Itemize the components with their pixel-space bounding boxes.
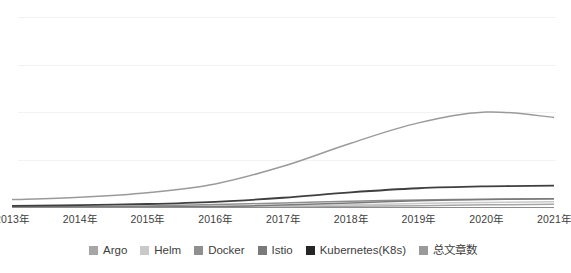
legend-item-kubernetes-k8s[interactable]: Kubernetes(K8s) [306, 243, 406, 257]
legend-item-helm[interactable]: Helm [140, 243, 181, 257]
gridlines [18, 18, 556, 161]
x-tick-label-2017: 2017年 [266, 212, 300, 226]
x-axis-tick-labels: 2013年2014年2015年2016年2017年2018年2019年2020年… [0, 212, 566, 232]
legend-swatch-icon [140, 246, 149, 255]
x-tick-label-2013: 2013年 [0, 212, 29, 226]
legend-label: Istio [272, 243, 293, 257]
legend-item-istio[interactable]: Istio [258, 243, 293, 257]
legend-label: Kubernetes(K8s) [320, 243, 406, 257]
x-tick-label-2020: 2020年 [469, 212, 503, 226]
x-tick-label-2019: 2019年 [402, 212, 436, 226]
legend-swatch-icon [306, 246, 315, 255]
chart-legend: ArgoHelmDockerIstioKubernetes(K8s)总文章数 [0, 243, 566, 257]
chart-plot-area [0, 0, 566, 212]
legend-item-总文章数[interactable]: 总文章数 [419, 243, 477, 257]
series-lines [12, 112, 554, 207]
x-tick-label-2018: 2018年 [334, 212, 368, 226]
x-tick-label-2016: 2016年 [198, 212, 232, 226]
legend-swatch-icon [89, 246, 98, 255]
x-tick-label-2015: 2015年 [131, 212, 165, 226]
x-tick-label-2021: 2021年 [537, 212, 571, 226]
legend-label: Docker [208, 243, 244, 257]
legend-swatch-icon [194, 246, 203, 255]
legend-swatch-icon [419, 246, 428, 255]
legend-swatch-icon [258, 246, 267, 255]
legend-label: 总文章数 [433, 243, 477, 257]
legend-label: Helm [154, 243, 181, 257]
x-tick-label-2014: 2014年 [63, 212, 97, 226]
legend-label: Argo [103, 243, 127, 257]
legend-item-docker[interactable]: Docker [194, 243, 244, 257]
legend-item-argo[interactable]: Argo [89, 243, 127, 257]
